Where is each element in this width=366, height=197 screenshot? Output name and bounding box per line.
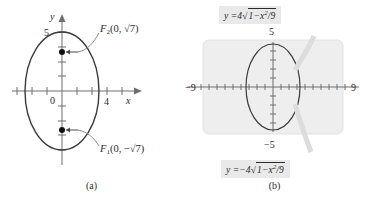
- y-axis-arrow: [59, 14, 66, 22]
- focus-label-f2-coords: (0, √7): [110, 23, 139, 35]
- svg-text:F2(0, √7): F2(0, √7): [99, 23, 139, 36]
- y-tick-label-5: 5: [44, 27, 49, 38]
- figure-container: y 5 0 4 x F2(0, √7) F1(0, −√7) (a): [0, 0, 366, 197]
- equation-label-lower: y =−4√1−x2/9: [221, 160, 290, 178]
- eq-lower-radicand: 1−x2/9: [256, 162, 285, 175]
- focus-point-f1: [59, 127, 65, 133]
- focus-point-f2: [59, 49, 65, 55]
- panel-b-caption: (b): [183, 180, 366, 191]
- leader-arrow-f1: [66, 128, 70, 133]
- y-axis-label: y: [49, 11, 55, 22]
- x-axis-label: x: [125, 95, 131, 106]
- b-x-min-label: −9: [185, 82, 196, 93]
- focus-label-f1: F1(0, −√7): [99, 143, 145, 156]
- b-x-max-label: 9: [351, 82, 356, 93]
- b-y-min-label: −5: [264, 139, 275, 150]
- eq-lower-coefficient: −4: [239, 165, 250, 175]
- eq-upper-radicand: 1−x2/9: [248, 8, 277, 21]
- focus-label-f2: F2(0, √7): [99, 23, 139, 36]
- svg-text:F1(0, −√7): F1(0, −√7): [99, 143, 145, 156]
- panel-a: y 5 0 4 x F2(0, √7) F1(0, −√7) (a): [0, 0, 183, 197]
- panel-a-caption: (a): [0, 180, 183, 191]
- equation-label-upper: y =4√1−x2/9: [219, 6, 281, 24]
- eq-upper-lhs: y: [224, 11, 228, 21]
- eq-lower-lhs: y: [226, 165, 230, 175]
- b-y-max-label: 5: [269, 26, 274, 37]
- eq-upper-denominator: /9: [268, 11, 276, 21]
- x-axis-arrow: [134, 88, 142, 95]
- leader-arrow-f2: [66, 50, 70, 55]
- focus-label-f1-coords: (0, −√7): [110, 143, 145, 155]
- x-tick-label-4: 4: [104, 96, 109, 107]
- origin-label: 0: [50, 95, 55, 106]
- panel-a-plot: y 5 0 4 x F2(0, √7) F1(0, −√7): [0, 0, 183, 175]
- panel-b-plot: −9 9 5 −5: [183, 0, 366, 175]
- eq-lower-denominator: /9: [276, 165, 284, 175]
